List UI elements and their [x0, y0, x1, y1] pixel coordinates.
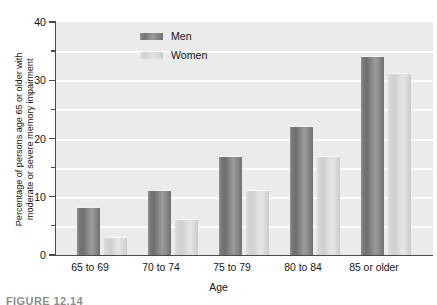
bar-women-75-to-79 — [246, 190, 269, 255]
figure-container: Percentage of persons age 65 or older wi… — [0, 0, 437, 305]
bar-women-80-to-84 — [317, 156, 340, 255]
bar-men-70-to-74 — [148, 190, 171, 255]
legend-label-men: Men — [171, 30, 192, 42]
legend-label-women: Women — [171, 49, 207, 61]
bar-men-65-to-69 — [77, 207, 100, 255]
y-tick-label-30: 30 — [24, 74, 46, 86]
bar-women-65-to-69 — [104, 237, 127, 256]
legend-swatch-men-icon — [140, 33, 163, 40]
legend-swatch-women-icon — [140, 52, 163, 59]
bar-men-80-to-84 — [290, 126, 313, 255]
legend: Men Women — [140, 28, 270, 66]
y-tick-label-10: 10 — [24, 191, 46, 203]
y-tick-label-0: 0 — [24, 249, 46, 261]
bar-women-85-or-older — [388, 73, 411, 255]
legend-item-men: Men — [140, 28, 270, 44]
bar-women-70-to-74 — [175, 219, 198, 255]
y-tick-label-20: 20 — [24, 133, 46, 145]
bar-men-85-or-older — [361, 56, 384, 255]
x-tick-label-75-to-79: 75 to 79 — [192, 262, 272, 273]
y-tick-label-40: 40 — [24, 16, 46, 28]
bar-men-75-to-79 — [219, 156, 242, 255]
x-tick-label-80-to-84: 80 to 84 — [263, 262, 343, 273]
x-tick-label-65-to-69: 65 to 69 — [50, 262, 130, 273]
x-axis-title: Age — [0, 282, 437, 293]
x-tick-label-70-to-74: 70 to 74 — [121, 262, 201, 273]
legend-item-women: Women — [140, 47, 270, 63]
x-tick-label-85-or-older: 85 or older — [334, 262, 414, 273]
figure-caption: FIGURE 12.14 — [6, 296, 206, 305]
